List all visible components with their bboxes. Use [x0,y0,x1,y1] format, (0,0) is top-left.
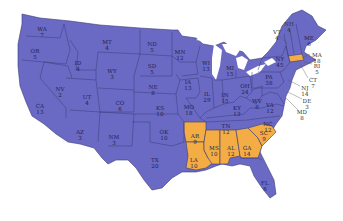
electoral-votes: 14 [243,152,252,158]
state-label-az: AZ3 [76,130,84,141]
electoral-votes: 10 [160,136,169,142]
state-label-ia: IA13 [184,80,191,91]
electoral-votes: 20 [151,164,159,170]
state-label-in: IN15 [221,93,228,104]
state-label-wi: WI13 [202,61,210,72]
electoral-votes: 15 [226,72,234,78]
electoral-votes: 13 [202,67,210,73]
electoral-votes: 14 [301,92,308,98]
state-label-tn: TN12 [222,124,231,135]
state-label-ny: NY45 [276,57,285,68]
state-label-al: AL12 [227,146,235,157]
state-label-sc: SC9 [260,131,268,142]
state-label-co: CO6 [115,101,124,112]
electoral-votes: 45 [276,63,285,69]
electoral-votes: 5 [147,48,157,54]
electoral-votes: 29 [203,98,210,104]
electoral-votes: 4 [284,28,294,34]
state-label-wa: WA7 [37,27,47,38]
electoral-votes: 10 [156,112,164,118]
state-label-nj: NJ14 [301,86,308,97]
state-label-wv: WV8 [252,99,262,110]
state-label-ks: KS10 [156,106,164,117]
state-label-tx: TX20 [151,158,159,169]
state-label-il: IL29 [203,92,210,103]
state-label-sd: SD5 [148,64,157,75]
electoral-votes: 2 [55,93,64,99]
state-label-ca: CA13 [36,104,45,115]
electoral-votes: 12 [222,130,231,136]
electoral-votes: 4 [102,46,112,52]
state-label-ct: CT7 [309,78,317,89]
state-label-mo: MO18 [184,105,195,116]
electoral-votes: 12 [175,56,186,62]
electoral-votes: 9 [191,140,199,146]
electoral-votes: 12 [227,152,235,158]
electoral-votes: 7 [37,33,47,39]
electoral-votes: 5 [31,55,40,61]
state-label-pa: PA38 [265,75,273,86]
state-label-nd: ND5 [147,42,157,53]
state-label-mi: MI15 [226,66,234,77]
electoral-votes: 13 [36,110,45,116]
state-label-ky: KY13 [233,106,241,117]
state-label-la: LA10 [190,158,198,169]
state-label-md: MD8 [297,110,307,121]
state-label-mn: MN12 [175,50,186,61]
state-label-va: VA12 [266,103,274,114]
state-label-fl: FL6 [261,181,269,192]
electoral-votes: 5 [148,70,157,76]
electoral-votes: 3 [109,141,120,147]
state-label-nv: NV2 [55,87,64,98]
electoral-votes: 13 [184,86,191,92]
state-label-nh: NH4 [284,22,294,33]
state-label-oh: OH24 [240,84,250,95]
state-label-me: ME6 [304,36,314,47]
electoral-votes: 9 [260,137,268,143]
electoral-votes: 6 [115,107,124,113]
electoral-votes: 3 [107,75,117,81]
electoral-votes: 6 [261,187,269,193]
electoral-votes: 18 [184,111,195,117]
state-label-ar: AR9 [191,134,199,145]
state-label-ms: MS10 [209,146,219,157]
electoral-votes: 4 [273,36,281,42]
electoral-votes: 10 [209,152,219,158]
electoral-votes: 7 [309,84,317,90]
electoral-votes: 4 [83,101,92,107]
state-label-nm: NM3 [109,135,120,146]
state-label-mt: MT4 [102,40,112,51]
state-label-ga: GA14 [243,146,252,157]
electoral-votes: 12 [266,109,274,115]
electoral-votes: 38 [265,81,273,87]
state-label-or: OR5 [31,49,40,60]
state-label-ri: RI5 [314,64,321,75]
electoral-votes: 6 [304,42,314,48]
state-label-vt: VT4 [273,30,281,41]
electoral-votes: 8 [297,116,307,122]
electoral-votes: 8 [148,91,157,97]
electoral-votes: 13 [233,112,241,118]
electoral-votes: 10 [190,164,198,170]
state-label-ok: OK10 [160,130,169,141]
state-label-ut: UT4 [83,95,92,106]
electoral-votes: 24 [240,90,250,96]
electoral-votes: 4 [75,67,82,73]
electoral-votes: 3 [76,136,84,142]
electoral-votes: 15 [221,99,228,105]
electoral-votes: 8 [252,105,262,111]
state-label-id: ID4 [75,61,82,72]
electoral-votes: 5 [314,70,321,76]
state-label-wy: WY3 [107,69,117,80]
state-label-ne: NE8 [148,85,157,96]
